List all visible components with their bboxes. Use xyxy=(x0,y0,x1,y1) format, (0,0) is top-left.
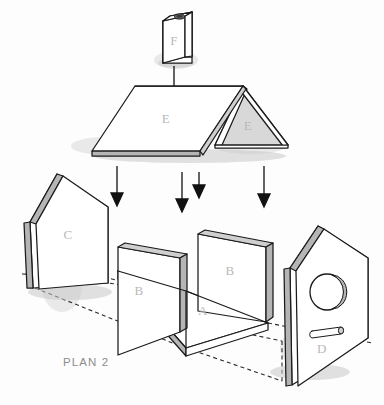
label-E-left: E xyxy=(162,111,170,126)
label-D: D xyxy=(317,341,327,356)
arrow-roof-left xyxy=(111,166,123,206)
arrow-roof-center-left xyxy=(176,172,188,212)
plan-caption: PLAN 2 xyxy=(63,356,109,368)
part-D-front-wall: D xyxy=(270,226,368,386)
plan-diagram: F E E xyxy=(0,0,384,405)
label-C: C xyxy=(63,227,72,242)
arrow-roof-center-right xyxy=(193,172,205,198)
label-B-left: B xyxy=(134,283,143,298)
part-E-roof: E E xyxy=(92,86,288,163)
part-C-back-wall: C xyxy=(24,174,112,300)
part-F-chimney: F xyxy=(158,12,194,68)
label-B-right: B xyxy=(225,263,234,278)
label-F: F xyxy=(170,33,178,48)
assembly-arrows xyxy=(111,166,270,212)
label-A: A xyxy=(198,303,208,318)
arrow-roof-right xyxy=(258,166,270,207)
part-A-base-and-B-walls: B B A xyxy=(118,230,273,356)
entrance-hole xyxy=(310,274,347,310)
birdhouse-assembly-svg: F E E xyxy=(0,0,384,405)
label-E-right: E xyxy=(244,118,252,133)
